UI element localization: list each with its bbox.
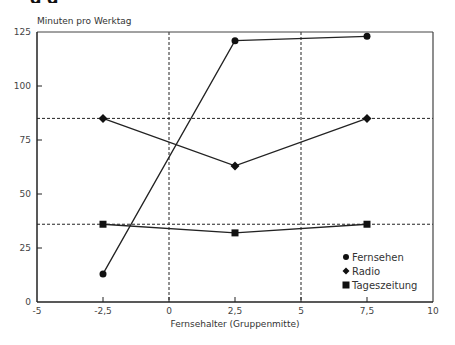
x-tick-label: -5 <box>33 306 42 316</box>
circle-marker <box>232 37 239 44</box>
series-line <box>103 118 367 166</box>
x-tick-label: -2,5 <box>94 306 112 316</box>
diamond-marker <box>363 114 372 123</box>
series-fernsehen <box>100 33 371 278</box>
x-tick-label: 0 <box>166 306 172 316</box>
diamond-marker <box>231 161 240 170</box>
x-tick-label: 2,5 <box>228 306 242 316</box>
legend-label: Fernsehen <box>352 252 404 263</box>
series-line <box>103 36 367 274</box>
legend-label: Radio <box>352 266 380 277</box>
series-tageszeitung <box>100 221 371 237</box>
square-marker <box>232 229 239 236</box>
square-marker <box>100 221 107 228</box>
y-tick-label: 125 <box>14 27 31 37</box>
circle-icon <box>343 254 349 260</box>
legend: FernsehenRadioTageszeitung <box>343 252 418 291</box>
square-icon <box>343 282 350 289</box>
y-tick-label: 25 <box>20 243 31 253</box>
line-chart: 0255075100125-5-2,502,557,510 FernsehenR… <box>0 0 455 345</box>
y-tick-label: 100 <box>14 81 31 91</box>
series <box>99 33 372 278</box>
circle-marker <box>364 33 371 40</box>
x-tick-label: 7,5 <box>360 306 374 316</box>
diamond-marker <box>99 114 108 123</box>
y-tick-label: 75 <box>20 135 31 145</box>
x-tick-label: 10 <box>427 306 439 316</box>
circle-marker <box>100 270 107 277</box>
legend-item-tageszeitung: Tageszeitung <box>343 280 418 291</box>
legend-item-radio: Radio <box>343 266 381 277</box>
x-axis-label: Fernsehalter (Gruppenmitte) <box>171 319 300 329</box>
y-axis-label: Minuten pro Werktag <box>37 16 131 26</box>
series-radio <box>99 114 372 171</box>
x-tick-label: 5 <box>298 306 304 316</box>
square-marker <box>364 221 371 228</box>
legend-item-fernsehen: Fernsehen <box>343 252 404 263</box>
y-tick-label: 0 <box>25 297 31 307</box>
diamond-icon <box>343 268 350 275</box>
y-tick-label: 50 <box>20 189 32 199</box>
legend-label: Tageszeitung <box>351 280 417 291</box>
